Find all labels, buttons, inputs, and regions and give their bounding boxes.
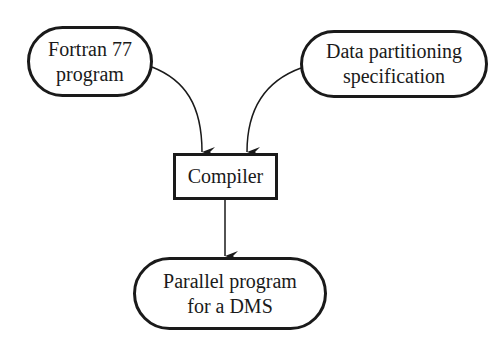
node-label-line2: program [56,62,124,87]
node-parallel-program: Parallel program for a DMS [133,257,327,330]
node-label-line2: specification [343,64,445,89]
node-label-line1: Data partitioning [326,39,462,64]
node-label-line1: Parallel program [163,269,297,294]
node-label: Compiler [188,164,264,189]
node-compiler: Compiler [173,153,278,200]
node-data-partitioning-specification: Data partitioning specification [300,30,488,98]
edge-fortran-to-compiler [152,67,202,152]
node-label-line2: for a DMS [187,294,273,319]
node-fortran-program: Fortran 77 program [27,26,153,97]
node-label-line1: Fortran 77 [48,37,132,62]
edge-partition-to-compiler [247,68,301,152]
